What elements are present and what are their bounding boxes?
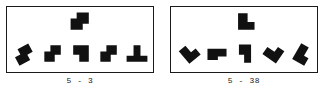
option-shape-left-5[interactable] xyxy=(124,41,150,67)
option-shape-right-3[interactable] xyxy=(232,41,258,67)
option-shape-right-4[interactable] xyxy=(260,41,286,67)
panel-caption-right: 5 - 38 xyxy=(170,76,318,85)
target-shape-left xyxy=(68,9,94,35)
figure-panel-left: 5 - 3 xyxy=(6,0,156,97)
panel-border-right xyxy=(170,6,318,73)
panel-border-left xyxy=(6,6,154,73)
panel-caption-left: 5 - 3 xyxy=(6,76,154,85)
option-shape-left-3[interactable] xyxy=(68,41,94,67)
option-shape-left-4[interactable] xyxy=(96,41,122,67)
figure-panel-right: 5 - 38 xyxy=(170,0,320,97)
option-shape-left-2[interactable] xyxy=(40,41,66,67)
option-shape-left-1[interactable] xyxy=(12,41,38,67)
option-shape-right-2[interactable] xyxy=(204,41,230,67)
option-shape-row-left xyxy=(7,37,155,71)
option-shape-right-5[interactable] xyxy=(288,41,314,67)
target-shape-right xyxy=(232,9,258,35)
option-shape-right-1[interactable] xyxy=(176,41,202,67)
option-shape-row-right xyxy=(171,37,319,71)
target-shape-row-right xyxy=(171,9,319,35)
figure-sheet: 5 - 3 xyxy=(0,0,326,97)
target-shape-row-left xyxy=(7,9,155,35)
